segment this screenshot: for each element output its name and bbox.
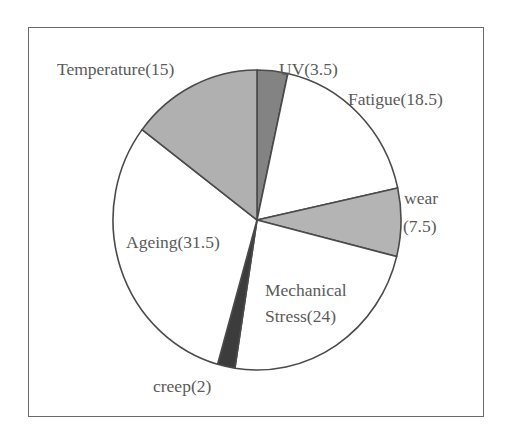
label-uv: UV(3.5): [279, 59, 338, 79]
pie-chart: Temperature(15) UV(3.5) Fatigue(18.5) we…: [0, 0, 513, 438]
label-wear-name: wear: [404, 188, 438, 208]
label-temperature: Temperature(15): [57, 59, 174, 79]
label-mechanical-value: Stress(24): [265, 306, 336, 326]
label-mechanical-name: Mechanical: [265, 280, 347, 300]
label-wear-value: (7.5): [403, 216, 437, 236]
label-creep: creep(2): [153, 376, 211, 396]
label-fatigue: Fatigue(18.5): [348, 89, 443, 109]
label-ageing: Ageing(31.5): [126, 232, 220, 252]
pie-slices: [113, 70, 401, 370]
